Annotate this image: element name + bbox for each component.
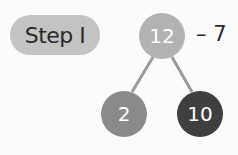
operation-label: – 7 <box>196 22 227 46</box>
left-node: 2 <box>101 91 147 137</box>
step-label: Step I <box>10 15 100 55</box>
left-branch-line <box>132 57 153 92</box>
right-node: 10 <box>177 91 223 137</box>
right-branch-line <box>172 57 192 92</box>
root-node: 12 <box>139 13 185 59</box>
